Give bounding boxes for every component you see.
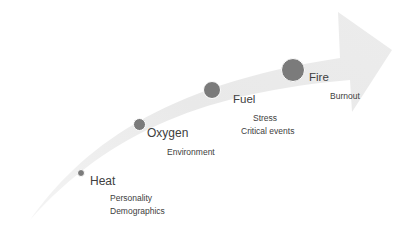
fuel-detail-stress: Stress [241,112,294,125]
fire-label: Fire [309,72,329,84]
oxygen-detail-environment: Environment [167,146,215,159]
oxygen-dot [133,118,146,131]
fuel-detail-critical-events: Critical events [241,125,294,138]
heat-details: Personality Demographics [110,192,165,218]
curved-arrow-shape [0,0,412,230]
fuel-label: Fuel [233,94,255,106]
fire-dot [281,58,305,82]
fuel-dot [203,81,221,99]
heat-dot [77,169,85,177]
fire-detail-burnout: Burnout [330,90,360,103]
heat-detail-demographics: Demographics [110,205,165,218]
oxygen-label: Oxygen [147,127,188,139]
oxygen-details: Environment [167,146,215,159]
fuel-details: Stress Critical events [241,112,294,138]
heat-detail-personality: Personality [110,192,165,205]
fire-details: Burnout [330,90,360,103]
heat-label: Heat [90,175,115,187]
burnout-fire-diagram: Heat Personality Demographics Oxygen Env… [0,0,412,230]
